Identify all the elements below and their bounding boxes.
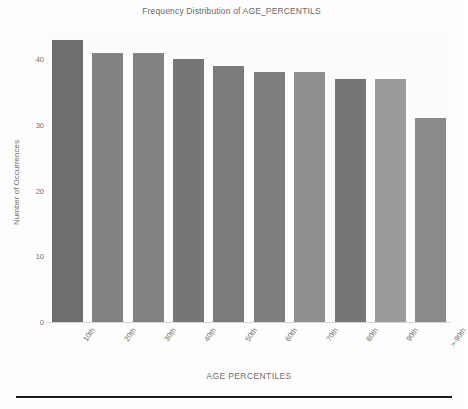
x-axis-tick-label: 70th (324, 326, 340, 343)
x-axis-title: AGE PERCENTILES (47, 371, 451, 381)
bar (254, 72, 285, 322)
bar (213, 66, 244, 322)
bottom-divider-rule (16, 396, 452, 398)
chart-title: Frequency Distribution of AGE_PERCENTILS (0, 6, 463, 16)
x-axis-tick-label: 90th (405, 326, 421, 343)
y-axis-tick-label: 0 (22, 318, 44, 327)
x-axis-tick-label: 50th (243, 326, 259, 343)
x-axis-tick-labels: 10th20th30th40th50th60th70th80th90th>-90… (47, 323, 451, 371)
x-axis-tick-label: 30th (162, 326, 178, 343)
bar (52, 40, 83, 322)
bar (335, 79, 366, 322)
y-axis-tick-label: 40 (22, 55, 44, 64)
bar (375, 79, 406, 322)
bar (133, 53, 164, 322)
x-axis-tick-label: 10th (81, 326, 97, 343)
x-axis-tick-label: 40th (203, 326, 219, 343)
plot-area (47, 33, 451, 322)
bar (173, 59, 204, 322)
bar (294, 72, 325, 322)
y-axis-tick-label: 30 (22, 120, 44, 129)
bar (415, 118, 446, 322)
bar (92, 53, 123, 322)
y-axis-tick-label: 20 (22, 186, 44, 195)
x-axis-tick-label: >-90th (448, 326, 468, 349)
x-axis-tick-label: 20th (122, 326, 138, 343)
y-axis-tick-label: 10 (22, 252, 44, 261)
x-axis-tick-label: 60th (283, 326, 299, 343)
y-axis-tick-labels: 010203040 (18, 0, 44, 409)
x-axis-tick-label: 80th (364, 326, 380, 343)
